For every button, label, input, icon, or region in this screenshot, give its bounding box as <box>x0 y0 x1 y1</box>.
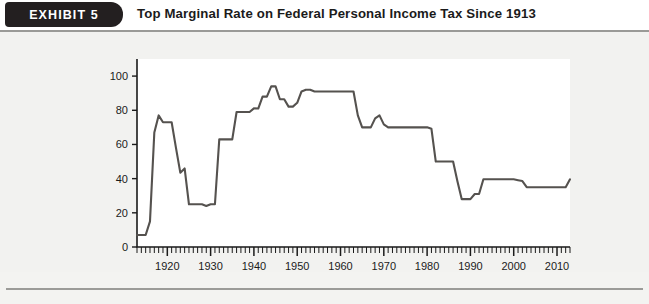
line-chart: 0204060801001920193019401950196019701980… <box>0 32 649 272</box>
y-axis-tick-label: 100 <box>110 70 128 82</box>
x-axis-tick-label: 1990 <box>458 260 482 272</box>
x-axis-tick-label: 1920 <box>155 260 179 272</box>
exhibit-badge-label: EXHIBIT 5 <box>29 8 99 22</box>
y-axis-tick-label: 80 <box>116 104 128 116</box>
footer-divider-rule <box>6 288 643 290</box>
exhibit-title: Top Marginal Rate on Federal Personal In… <box>137 6 536 21</box>
x-axis-tick-label: 1960 <box>328 260 352 272</box>
data-line-series-0 <box>137 86 570 235</box>
x-axis-tick-label: 2000 <box>501 260 525 272</box>
y-axis-tick-label: 20 <box>116 207 128 219</box>
exhibit-number-badge: EXHIBIT 5 <box>5 2 123 27</box>
x-axis-tick-label: 1970 <box>372 260 396 272</box>
y-axis-tick-label: 0 <box>122 241 128 253</box>
exhibit-header: EXHIBIT 5 Top Marginal Rate on Federal P… <box>0 0 649 30</box>
x-axis-tick-label: 1950 <box>285 260 309 272</box>
y-axis-tick-label: 60 <box>116 138 128 150</box>
x-axis-tick-label: 1930 <box>198 260 222 272</box>
x-axis-tick-label: 2010 <box>545 260 569 272</box>
x-axis-tick-label: 1980 <box>415 260 439 272</box>
exhibit-figure: EXHIBIT 5 Top Marginal Rate on Federal P… <box>0 0 649 304</box>
axis-lines <box>137 59 570 247</box>
chart-container: Marginal tax rate as percent of income 0… <box>0 32 649 272</box>
x-axis-tick-label: 1940 <box>242 260 266 272</box>
y-axis-tick-label: 40 <box>116 173 128 185</box>
